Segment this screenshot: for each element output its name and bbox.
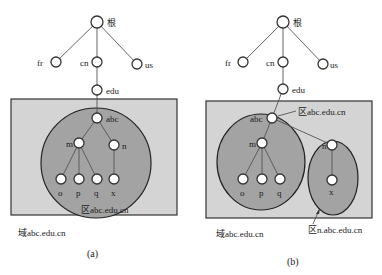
node-abc bbox=[92, 113, 102, 123]
node-m bbox=[257, 138, 267, 148]
node-fr bbox=[51, 57, 61, 67]
edge-root-fr bbox=[243, 22, 283, 62]
label-n: n bbox=[122, 141, 127, 151]
zone-label-a: 区abc.edu.cn bbox=[81, 205, 129, 215]
domain-label-a: 域abc.edu.cn bbox=[18, 227, 66, 238]
label-p: p bbox=[259, 188, 264, 198]
edge-root-fr bbox=[56, 22, 97, 62]
node-o bbox=[238, 174, 248, 184]
label-fr: fr bbox=[225, 58, 231, 68]
label-o: o bbox=[58, 188, 63, 198]
node-root bbox=[91, 16, 103, 28]
edge-root-us bbox=[97, 22, 137, 64]
label-us: us bbox=[145, 60, 154, 70]
diagram-b: 根 fr cn us edu abc m n o p q x 区abc.edu.… bbox=[206, 16, 372, 268]
node-x bbox=[327, 175, 337, 185]
node-o bbox=[56, 174, 66, 184]
node-q bbox=[275, 174, 285, 184]
label-edu: edu bbox=[292, 85, 305, 95]
node-n bbox=[327, 140, 337, 150]
label-edu: edu bbox=[106, 86, 119, 96]
edge-root-us bbox=[283, 22, 323, 64]
zone-label-main-b: 区abc.edu.cn bbox=[298, 107, 346, 117]
label-n: n bbox=[322, 141, 327, 151]
node-abc bbox=[267, 113, 277, 123]
node-us bbox=[132, 59, 142, 69]
node-q bbox=[92, 174, 102, 184]
label-abc: abc bbox=[106, 114, 119, 124]
label-cn: cn bbox=[80, 58, 89, 68]
caption-a: (a) bbox=[87, 248, 98, 260]
node-m bbox=[74, 138, 84, 148]
caption-b: (b) bbox=[287, 256, 299, 268]
node-fr bbox=[238, 57, 248, 67]
label-fr: fr bbox=[37, 58, 43, 68]
node-n bbox=[109, 140, 119, 150]
label-p: p bbox=[76, 188, 81, 198]
zone-label-sub-b: 区n.abc.edu.cn bbox=[308, 225, 363, 235]
node-us bbox=[318, 59, 328, 69]
label-x: x bbox=[329, 187, 334, 197]
label-cn: cn bbox=[266, 58, 275, 68]
label-us: us bbox=[330, 60, 339, 70]
node-p bbox=[74, 174, 84, 184]
node-edu bbox=[278, 84, 288, 94]
diagram-a: 根 fr cn us edu abc m n o p q x 区abc.edu.… bbox=[11, 16, 177, 260]
label-root: 根 bbox=[293, 17, 302, 28]
label-root: 根 bbox=[107, 17, 116, 28]
node-x bbox=[109, 174, 119, 184]
node-p bbox=[257, 174, 267, 184]
label-m: m bbox=[66, 139, 73, 149]
dns-zone-diagram: 根 fr cn us edu abc m n o p q x 区abc.edu.… bbox=[0, 0, 382, 275]
label-abc: abc bbox=[250, 114, 263, 124]
node-cn bbox=[92, 57, 102, 67]
label-q: q bbox=[277, 188, 282, 198]
label-m: m bbox=[249, 139, 256, 149]
label-q: q bbox=[94, 188, 99, 198]
zone-circle-a bbox=[41, 108, 151, 218]
domain-label-b: 域abc.edu.cn bbox=[216, 228, 264, 239]
node-root bbox=[277, 16, 289, 28]
node-edu bbox=[92, 85, 102, 95]
node-cn bbox=[278, 57, 288, 67]
label-x: x bbox=[111, 188, 116, 198]
label-o: o bbox=[240, 188, 245, 198]
